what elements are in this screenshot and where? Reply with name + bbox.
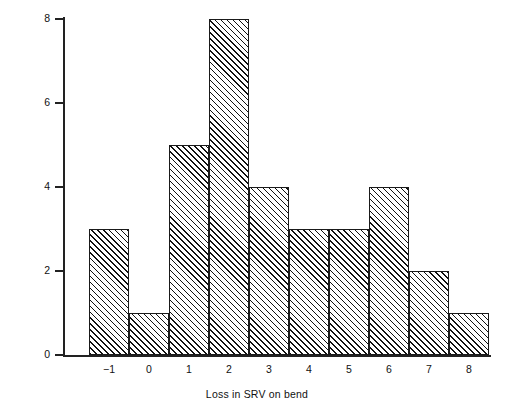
y-axis-line [63,17,65,357]
y-tick-mark [55,186,63,188]
x-tick-label: 4 [289,364,329,375]
x-tick-label: −1 [89,364,129,375]
bar [169,145,209,355]
y-tick-mark [55,354,63,356]
bar [449,313,489,355]
bar [249,187,289,355]
x-axis-title: Loss in SRV on bend [0,388,514,400]
x-tick-label: 0 [129,364,169,375]
y-tick-label: 0 [30,349,50,360]
bar [369,187,409,355]
x-axis-line [63,355,491,357]
y-tick-mark [55,102,63,104]
x-tick-label: 5 [329,364,369,375]
x-tick-label: 3 [249,364,289,375]
bar [89,229,129,355]
bar [129,313,169,355]
y-tick-mark [55,18,63,20]
bar [409,271,449,355]
bar [209,19,249,355]
y-tick-label: 8 [30,13,50,24]
histogram-figure: Number of results 02468 −1012345678 Loss… [0,0,514,413]
y-tick-label: 6 [30,97,50,108]
y-tick-label: 4 [30,181,50,192]
x-tick-label: 6 [369,364,409,375]
x-tick-label: 8 [449,364,489,375]
y-tick-mark [55,270,63,272]
bar [289,229,329,355]
bar [329,229,369,355]
y-tick-label: 2 [30,265,50,276]
x-tick-label: 7 [409,364,449,375]
x-tick-label: 1 [169,364,209,375]
x-tick-label: 2 [209,364,249,375]
